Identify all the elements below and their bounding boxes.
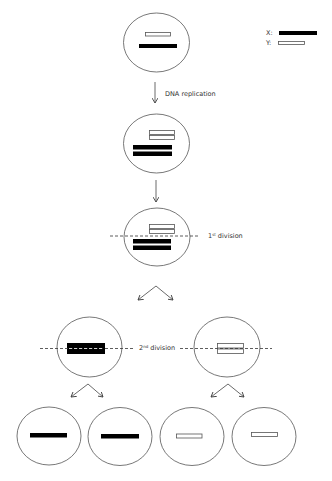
cell-second-division-y	[180, 317, 272, 377]
x-chromatid	[133, 239, 171, 244]
y-chromatid	[218, 344, 244, 349]
second-division-label: 2nd division	[139, 344, 175, 353]
gamete-x-2	[88, 408, 152, 466]
cell-second-division-x	[40, 317, 135, 377]
y-chromosome	[146, 33, 171, 37]
gamete-y-2	[232, 408, 296, 466]
y-chromosome	[177, 434, 203, 438]
y-chromatid	[150, 136, 175, 140]
x-chromosome	[30, 433, 67, 438]
cell-replicated	[124, 114, 190, 173]
split-arrows	[138, 286, 173, 300]
y-chromosome	[252, 433, 278, 437]
y-chromatid	[150, 131, 175, 135]
gamete-x-1	[17, 407, 81, 465]
split-arrows-left	[71, 384, 103, 397]
first-division-label: 1st division	[208, 232, 243, 241]
x-chromosome	[101, 434, 139, 439]
legend-y-chromosome	[279, 42, 305, 45]
cell-start	[124, 13, 190, 72]
meiosis-diagram: X: Y: DNA replication 1st division	[0, 0, 332, 481]
legend-x-chromosome	[279, 31, 317, 35]
legend: X: Y:	[265, 29, 317, 47]
x-chromosome	[139, 44, 177, 48]
x-chromatid	[133, 246, 171, 251]
replication-label: DNA replication	[165, 90, 216, 98]
x-chromatid	[133, 152, 172, 157]
y-chromatid	[218, 349, 244, 354]
x-chromatid	[133, 145, 172, 150]
cell-first-division	[110, 208, 200, 266]
y-chromatid	[150, 225, 175, 229]
y-chromatid	[150, 230, 175, 234]
split-arrows-right	[211, 384, 244, 397]
gamete-y-1	[160, 408, 224, 466]
legend-y-label: Y:	[265, 39, 271, 47]
legend-x-label: X:	[266, 29, 273, 37]
